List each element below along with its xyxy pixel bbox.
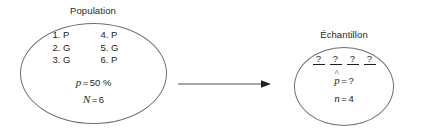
sampling-arrow-icon (178, 74, 272, 94)
population-list-row: 2. G 5. G (53, 42, 135, 55)
population-proportion: p=50 % (20, 76, 167, 88)
equals-sign: = (90, 94, 99, 105)
population-item: 1. P (53, 29, 87, 42)
population-list-row: 1. P 4. P (53, 29, 135, 42)
sample-size-value: 4 (348, 93, 353, 104)
sample-size-symbol: n (334, 92, 340, 104)
population-caption: Population (20, 5, 166, 16)
population-size: N=6 (20, 93, 167, 105)
sample-unknown-slot: ? (330, 53, 342, 65)
population-proportion-value: 50 % (90, 77, 112, 88)
sample-unknown-slot: ? (313, 53, 325, 65)
population-content: 1. P 4. P 2. G 5. G 3. G 6. P p=50 % N=6 (20, 23, 167, 124)
population-item: 6. P (101, 54, 135, 67)
sample-unknown-slot: ? (347, 53, 359, 65)
population-item: 4. P (101, 29, 135, 42)
sample-proportion: ^p=? (294, 74, 394, 86)
population-item: 3. G (53, 54, 87, 67)
population-list-row: 3. G 6. P (53, 54, 135, 67)
population-item-list: 1. P 4. P 2. G 5. G 3. G 6. P (20, 29, 167, 67)
sample-unknown-slot: ? (364, 53, 376, 65)
sampling-diagram: Population 1. P 4. P 2. G 5. G 3. G 6. P… (0, 0, 421, 135)
sample-unknown-slots: ? ? ? ? (294, 53, 394, 65)
equals-sign: = (81, 77, 90, 88)
sample-caption: Échantillon (295, 29, 393, 40)
sample-content: ? ? ? ? ^p=? n=4 (294, 47, 394, 126)
p-hat-symbol: ^p (334, 74, 340, 86)
population-item: 2. G (53, 42, 87, 55)
population-size-value: 6 (99, 94, 104, 105)
hat-accent: ^ (334, 69, 339, 78)
population-item: 5. G (101, 42, 135, 55)
sample-size: n=4 (294, 92, 394, 104)
sample-proportion-value: ? (348, 75, 353, 86)
